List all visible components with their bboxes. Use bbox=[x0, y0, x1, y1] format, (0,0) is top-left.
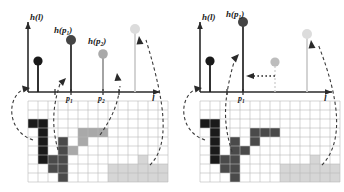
stem-mid-gray-right bbox=[270, 57, 279, 92]
y-axis-label-right: h(l) bbox=[202, 12, 216, 22]
panel-before-merge: h(l) h(p1) h(p2) p1 p2 l bbox=[0, 0, 172, 192]
stem-mid-gray bbox=[98, 49, 108, 92]
axes-left bbox=[28, 22, 160, 92]
stem-label-h-p2: h(p2) bbox=[88, 36, 106, 47]
stem-dark-small-right bbox=[205, 56, 214, 92]
x-tick-label-p2: p2 bbox=[97, 94, 105, 104]
stem-dark-tall-right bbox=[238, 17, 248, 92]
dotted-merge-arrow bbox=[246, 73, 275, 79]
y-axis-arrowhead bbox=[25, 22, 31, 29]
y-axis-label-left: h(l) bbox=[30, 12, 44, 22]
stem-dark-small bbox=[33, 56, 42, 92]
stem-label-h-p1: h(p1) bbox=[54, 25, 72, 36]
x-tick-label-p1: p1 bbox=[65, 94, 73, 104]
x-tick-label-p1-right: p1 bbox=[237, 94, 245, 104]
panel-after-merge: h(l) h(p1) p1 l bbox=[172, 0, 344, 192]
stem-light-gray-right bbox=[302, 29, 312, 92]
panel-right-canvas: h(l) h(p1) p1 l bbox=[172, 0, 344, 192]
axes-right bbox=[200, 22, 332, 92]
figure-container: h(l) h(p1) h(p2) p1 p2 l bbox=[0, 0, 344, 192]
pixel-grid-left bbox=[28, 101, 168, 182]
y-axis-arrowhead-right bbox=[197, 22, 203, 29]
connector-arrowheads-right bbox=[194, 40, 316, 93]
pixel-grid-right bbox=[200, 101, 340, 182]
panel-left-canvas: h(l) h(p1) h(p2) p1 p2 l bbox=[0, 0, 172, 192]
stem-light-gray bbox=[130, 24, 140, 92]
stem-label-h-p1-right: h(p1) bbox=[226, 9, 244, 20]
stem-dark-tall bbox=[66, 35, 76, 92]
